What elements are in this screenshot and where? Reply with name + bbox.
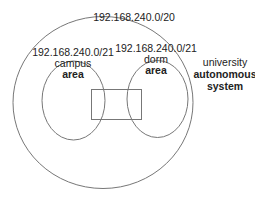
as-side-label-line3: system xyxy=(207,80,243,92)
as-prefix-label: 192.168.240.0/20 xyxy=(93,11,175,23)
dorm-area-label: area xyxy=(145,64,167,76)
network-diagram: 192.168.240.0/20 192.168.240.0/21 campus… xyxy=(0,0,255,199)
campus-area-label: area xyxy=(62,68,84,80)
backbone-router-box xyxy=(92,90,142,120)
as-side-label-line1: university xyxy=(203,56,248,68)
as-side-label-line2: autonomous xyxy=(194,68,256,80)
